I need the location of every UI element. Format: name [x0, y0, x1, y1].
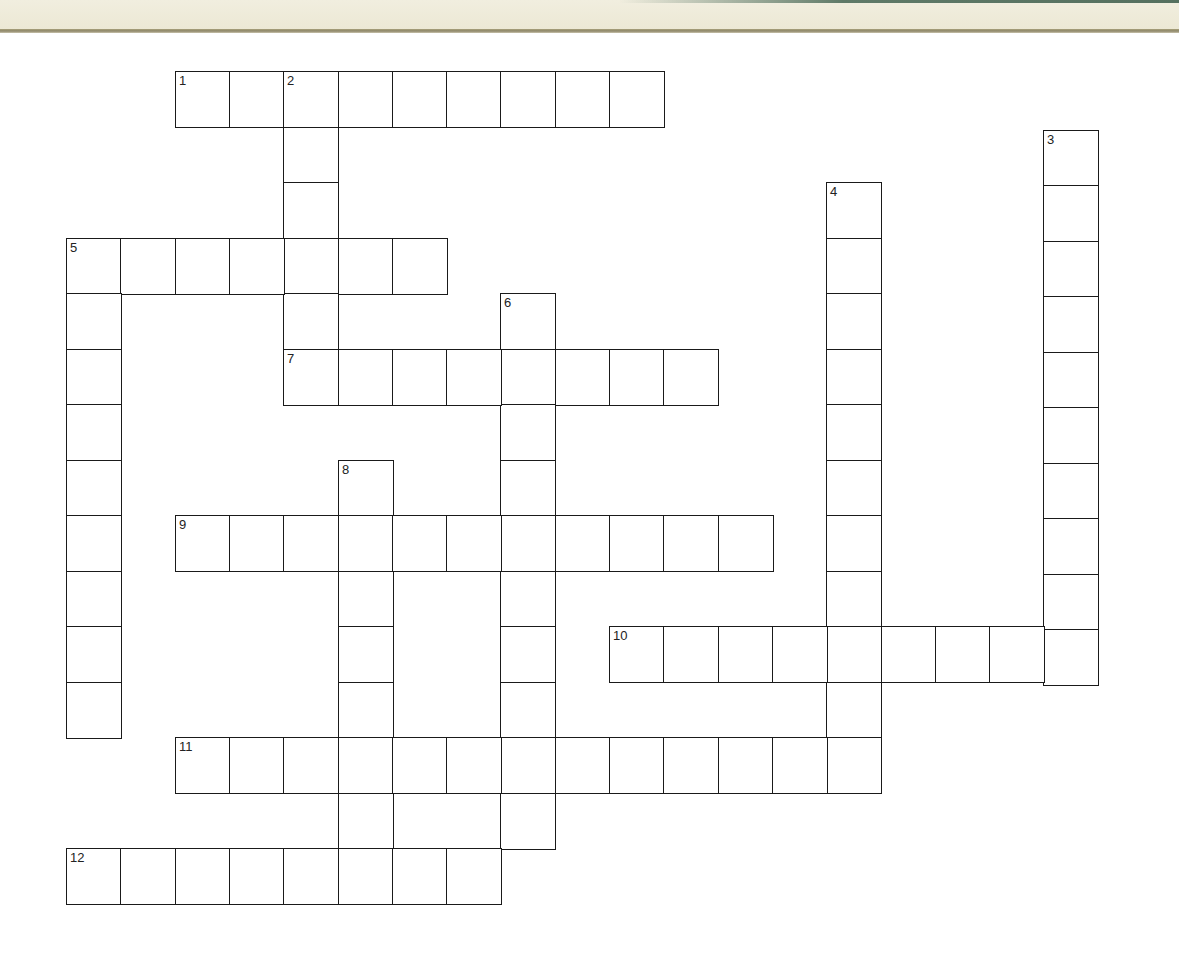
cell-letter-input[interactable]	[284, 128, 338, 183]
crossword-cell[interactable]	[283, 515, 339, 572]
cell-letter-input[interactable]	[610, 516, 664, 571]
cell-letter-input[interactable]	[610, 738, 664, 793]
crossword-cell[interactable]	[826, 682, 882, 739]
cell-letter-input[interactable]	[556, 72, 610, 127]
cell-letter-input[interactable]	[610, 627, 664, 682]
cell-letter-input[interactable]	[121, 849, 175, 904]
cell-letter-input[interactable]	[882, 627, 936, 682]
crossword-cell[interactable]: 9	[175, 515, 231, 572]
cell-letter-input[interactable]	[339, 461, 393, 516]
cell-letter-input[interactable]	[501, 461, 555, 516]
crossword-cell[interactable]	[338, 349, 394, 406]
crossword-cell[interactable]	[338, 793, 394, 850]
crossword-cell[interactable]: 12	[66, 848, 122, 905]
crossword-cell[interactable]	[66, 404, 122, 461]
crossword-cell[interactable]	[881, 626, 937, 683]
cell-letter-input[interactable]	[1044, 630, 1098, 685]
crossword-cell[interactable]	[66, 349, 122, 406]
cell-letter-input[interactable]	[936, 627, 990, 682]
cell-letter-input[interactable]	[447, 849, 501, 904]
cell-letter-input[interactable]	[1044, 519, 1098, 574]
cell-letter-input[interactable]	[1044, 408, 1098, 463]
crossword-cell[interactable]	[1043, 518, 1099, 575]
crossword-cell[interactable]	[555, 737, 611, 794]
crossword-cell[interactable]	[1043, 629, 1099, 686]
cell-letter-input[interactable]	[339, 239, 393, 294]
cell-letter-input[interactable]	[501, 572, 555, 627]
cell-letter-input[interactable]	[827, 516, 881, 571]
crossword-cell[interactable]	[392, 515, 448, 572]
crossword-cell[interactable]	[500, 71, 556, 128]
crossword-cell[interactable]	[826, 515, 882, 572]
cell-letter-input[interactable]	[1044, 464, 1098, 519]
cell-letter-input[interactable]	[67, 294, 121, 349]
cell-letter-input[interactable]	[556, 516, 610, 571]
crossword-cell[interactable]	[283, 238, 339, 295]
crossword-cell[interactable]	[446, 515, 502, 572]
cell-letter-input[interactable]	[176, 849, 230, 904]
cell-letter-input[interactable]	[664, 738, 718, 793]
crossword-cell[interactable]	[1043, 185, 1099, 242]
crossword-cell[interactable]	[229, 848, 285, 905]
crossword-cell[interactable]: 1	[175, 71, 231, 128]
crossword-cell[interactable]	[1043, 463, 1099, 520]
cell-letter-input[interactable]	[827, 683, 881, 738]
cell-letter-input[interactable]	[339, 794, 393, 849]
crossword-cell[interactable]: 4	[826, 182, 882, 239]
crossword-cell[interactable]	[1043, 241, 1099, 298]
crossword-cell[interactable]	[1043, 407, 1099, 464]
crossword-cell[interactable]	[338, 737, 394, 794]
cell-letter-input[interactable]	[176, 72, 230, 127]
cell-letter-input[interactable]	[339, 516, 393, 571]
crossword-cell[interactable]	[609, 349, 665, 406]
cell-letter-input[interactable]	[284, 350, 338, 405]
crossword-cell[interactable]	[446, 848, 502, 905]
crossword-cell[interactable]	[826, 349, 882, 406]
cell-letter-input[interactable]	[393, 516, 447, 571]
cell-letter-input[interactable]	[990, 627, 1044, 682]
cell-letter-input[interactable]	[339, 849, 393, 904]
crossword-cell[interactable]	[338, 571, 394, 628]
crossword-cell[interactable]: 2	[283, 71, 339, 128]
crossword-cell[interactable]	[663, 626, 719, 683]
crossword-cell[interactable]	[66, 293, 122, 350]
crossword-cell[interactable]	[66, 515, 122, 572]
cell-letter-input[interactable]	[1044, 131, 1098, 186]
cell-letter-input[interactable]	[393, 738, 447, 793]
cell-letter-input[interactable]	[393, 72, 447, 127]
cell-letter-input[interactable]	[501, 405, 555, 460]
cell-letter-input[interactable]	[501, 627, 555, 682]
crossword-cell[interactable]	[283, 848, 339, 905]
cell-letter-input[interactable]	[1044, 353, 1098, 408]
cell-letter-input[interactable]	[827, 183, 881, 238]
crossword-cell[interactable]	[338, 71, 394, 128]
cell-letter-input[interactable]	[1044, 297, 1098, 352]
cell-letter-input[interactable]	[67, 683, 121, 738]
crossword-cell[interactable]	[609, 71, 665, 128]
cell-letter-input[interactable]	[827, 738, 881, 793]
cell-letter-input[interactable]	[67, 239, 121, 294]
cell-letter-input[interactable]	[230, 239, 284, 294]
cell-letter-input[interactable]	[284, 294, 338, 349]
cell-letter-input[interactable]	[393, 849, 447, 904]
crossword-cell[interactable]	[663, 737, 719, 794]
crossword-cell[interactable]	[826, 626, 882, 683]
cell-letter-input[interactable]	[1044, 186, 1098, 241]
crossword-cell[interactable]	[283, 293, 339, 350]
crossword-cell[interactable]	[120, 848, 176, 905]
cell-letter-input[interactable]	[1044, 242, 1098, 297]
crossword-cell[interactable]	[500, 682, 556, 739]
crossword-cell[interactable]	[338, 515, 394, 572]
cell-letter-input[interactable]	[339, 572, 393, 627]
cell-letter-input[interactable]	[339, 72, 393, 127]
cell-letter-input[interactable]	[556, 738, 610, 793]
crossword-cell[interactable]	[1043, 574, 1099, 631]
crossword-cell[interactable]	[663, 349, 719, 406]
cell-letter-input[interactable]	[827, 294, 881, 349]
cell-letter-input[interactable]	[176, 516, 230, 571]
crossword-cell[interactable]	[338, 848, 394, 905]
crossword-cell[interactable]: 10	[609, 626, 665, 683]
crossword-cell[interactable]	[446, 349, 502, 406]
crossword-cell[interactable]	[772, 737, 828, 794]
crossword-cell[interactable]	[283, 737, 339, 794]
